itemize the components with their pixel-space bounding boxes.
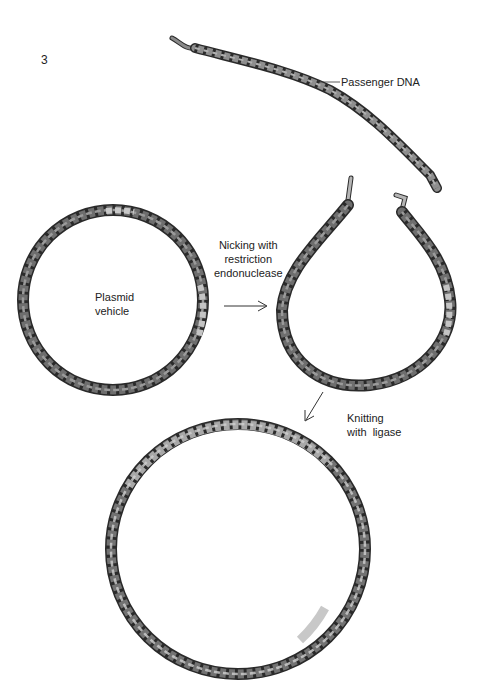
nicked-plasmid-helix (282, 178, 450, 386)
passenger-dna-label: Passenger DNA (341, 75, 420, 89)
knitting-label-line1: Knitting (347, 411, 401, 425)
nicking-label: Nicking with restriction endonuclease (214, 238, 283, 280)
figure-number: 3 (41, 53, 48, 67)
diagram-canvas (0, 0, 489, 690)
recombinant-dna-ring (111, 424, 365, 674)
plasmid-vehicle-label: Plasmid vehicle (95, 290, 134, 318)
nicking-label-line3: endonuclease (214, 266, 283, 280)
plasmid-label-line2: vehicle (95, 304, 134, 318)
nicking-label-line1: Nicking with (214, 238, 283, 252)
nicking-arrow (224, 301, 267, 311)
plasmid-label-line1: Plasmid (95, 290, 134, 304)
passenger-dna-helix (172, 38, 437, 188)
knitting-arrow (305, 392, 323, 421)
knitting-label-line2: with ligase (347, 425, 401, 439)
nicking-label-line2: restriction (214, 252, 283, 266)
knitting-label: Knitting with ligase (347, 411, 401, 439)
